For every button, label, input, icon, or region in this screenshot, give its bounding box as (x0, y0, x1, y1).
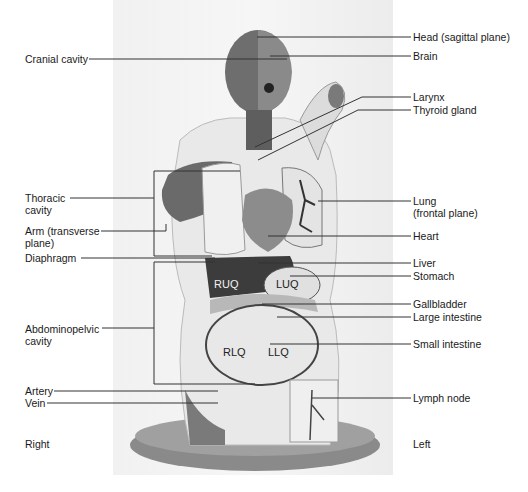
label-gallbladder: Gallbladder (413, 298, 467, 310)
label-line: Arm (transverse (25, 225, 100, 237)
label-lymph-node: Lymph node (413, 392, 470, 404)
quadrant-llq: LLQ (268, 346, 289, 358)
label-line: Thoracic (25, 192, 65, 204)
label-thoracic-cavity: Thoracic cavity (25, 192, 65, 216)
quadrant-ruq: RUQ (214, 278, 238, 290)
label-heart: Heart (413, 230, 439, 242)
quadrant-rlq: RLQ (223, 346, 246, 358)
label-line: (frontal plane) (413, 207, 478, 219)
label-cranial-cavity: Cranial cavity (25, 53, 88, 65)
label-larynx: Larynx (413, 91, 445, 103)
label-head: Head (sagittal plane) (413, 31, 510, 43)
label-artery: Artery (25, 385, 53, 397)
label-diaphragm: Diaphragm (25, 252, 76, 264)
quadrant-luq: LUQ (276, 278, 299, 290)
label-stomach: Stomach (413, 270, 454, 282)
label-arm: Arm (transverse plane) (25, 225, 100, 249)
label-abdominopelvic-cavity: Abdominopelvic cavity (25, 323, 99, 347)
label-large-intestine: Large intestine (413, 311, 482, 323)
label-vein: Vein (25, 397, 45, 409)
label-line: Lung (413, 195, 478, 207)
label-line: cavity (25, 204, 65, 216)
label-small-intestine: Small intestine (413, 338, 481, 350)
label-thyroid-gland: Thyroid gland (413, 104, 477, 116)
label-line: cavity (25, 335, 99, 347)
label-line: plane) (25, 237, 100, 249)
label-brain: Brain (413, 50, 438, 62)
label-left-side: Left (413, 438, 431, 450)
label-lung: Lung (frontal plane) (413, 195, 478, 219)
label-right-side: Right (25, 438, 50, 450)
label-liver: Liver (413, 257, 436, 269)
label-line: Abdominopelvic (25, 323, 99, 335)
